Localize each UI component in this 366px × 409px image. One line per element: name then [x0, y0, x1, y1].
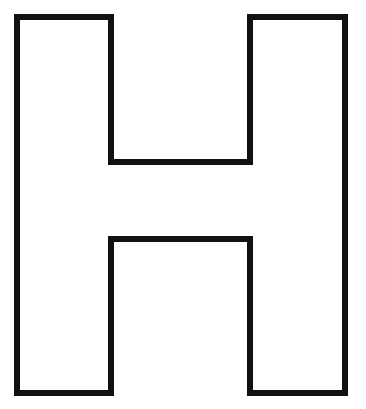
letter-h-icon: [0, 0, 366, 409]
letter-h-shape: [17, 17, 345, 393]
